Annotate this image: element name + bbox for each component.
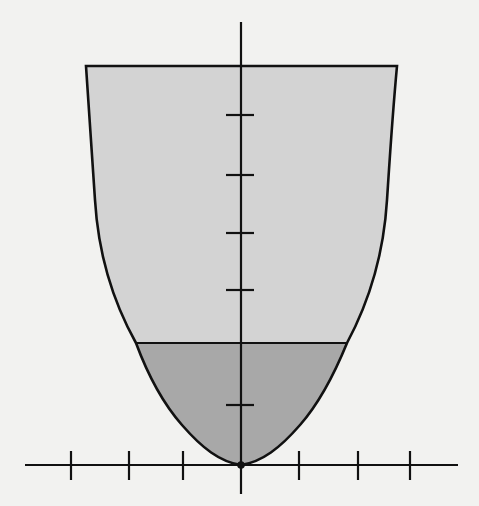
origin-point [237, 461, 245, 469]
parabolic-vessel-diagram [0, 0, 479, 506]
